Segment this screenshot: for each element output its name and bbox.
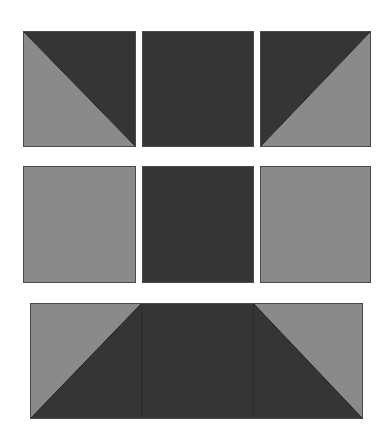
middle-left-light-block xyxy=(23,166,136,283)
top-center-dark-block xyxy=(142,31,254,147)
bottom-flying-geese-strip xyxy=(30,303,363,419)
middle-right-light-block xyxy=(260,166,371,283)
light-fill xyxy=(23,166,136,283)
dark-fill xyxy=(142,31,254,147)
top-right-hst-block xyxy=(260,31,371,147)
middle-center-dark-block xyxy=(142,166,254,283)
dark-fill xyxy=(142,166,254,283)
light-fill xyxy=(260,166,371,283)
top-left-hst-block xyxy=(23,31,136,147)
